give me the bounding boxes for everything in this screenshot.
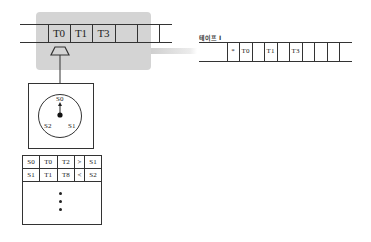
table-cell: S1 [23,169,40,182]
tape-cell: T1 [70,24,92,42]
transition-table: S0 T0 T2 > S1 S1 T1 T8 < S2 [22,155,102,182]
tape-bottom-edge [20,42,172,43]
tape-cell: * [227,42,239,60]
cell-divider [115,24,116,43]
table-cell: S2 [85,169,102,182]
zoom-beam [151,48,197,54]
tape-cell: T3 [92,24,115,42]
cell-divider [302,42,303,61]
cell-divider [314,42,315,61]
cell-divider [159,24,160,43]
read-write-head-icon [48,45,74,85]
tape-cell: T3 [289,42,302,60]
table-cell: S1 [85,156,102,169]
cell-divider [137,24,138,43]
table-cell: T1 [39,169,57,182]
tape-bottom-edge [199,61,352,62]
table-cell: < [75,169,85,182]
ellipsis-dot-icon [59,192,62,195]
cell-divider [277,42,278,61]
ellipsis-dot-icon [59,200,62,203]
table-row: S0 T0 T2 > S1 [23,156,102,169]
tape-label: 테이프 I [199,33,221,42]
table-cell: T2 [57,156,75,169]
tape-cell: T0 [48,24,70,42]
tape-cell: T1 [264,42,277,60]
table-cell: S0 [23,156,40,169]
table-cell: T8 [57,169,75,182]
table-continuation [22,181,102,225]
cell-divider [252,42,253,61]
table-cell: > [75,156,85,169]
cell-divider [339,42,340,61]
table-cell: T0 [39,156,57,169]
tape-cell: T0 [239,42,252,60]
cell-divider [327,42,328,61]
state-label-left: S2 [44,122,51,130]
ellipsis-dot-icon [59,208,62,211]
dial-pointer-icon [54,100,66,120]
table-row: S1 T1 T8 < S2 [23,169,102,182]
state-label-right: S1 [68,122,75,130]
